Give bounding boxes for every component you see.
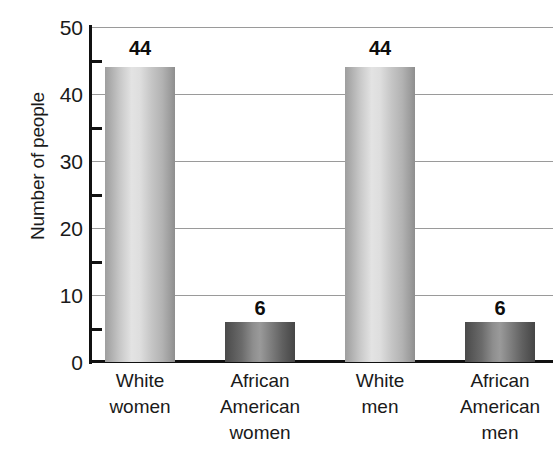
bar-african-american-men[interactable] (465, 322, 535, 362)
category-line: women (70, 394, 210, 420)
y-tick-label-30: 30 (23, 151, 83, 172)
category-line: African (430, 368, 560, 394)
category-line: men (310, 394, 450, 420)
bar-white-men[interactable] (345, 67, 415, 362)
category-line: White (310, 368, 450, 394)
value-label-african-american-men: 6 (455, 297, 545, 320)
bar-african-american-women[interactable] (225, 322, 295, 362)
bar-chart: Number of people 50 40 30 20 10 0 44 6 4… (0, 0, 560, 456)
category-line: African (190, 368, 330, 394)
category-label-african-american-women: African American women (190, 368, 330, 446)
category-line: White (70, 368, 210, 394)
value-label-white-men: 44 (335, 37, 425, 60)
value-label-african-american-women: 6 (215, 297, 305, 320)
category-label-white-women: White women (70, 368, 210, 420)
category-label-white-men: White men (310, 368, 450, 420)
y-tick-label-50: 50 (23, 17, 83, 38)
category-line: women (190, 420, 330, 446)
category-line: men (430, 420, 560, 446)
y-tick-label-40: 40 (23, 84, 83, 105)
y-tick-label-10: 10 (23, 285, 83, 306)
category-label-african-american-men: African American men (430, 368, 560, 446)
bar-white-women[interactable] (105, 67, 175, 362)
category-line: American (430, 394, 560, 420)
value-label-white-women: 44 (95, 37, 185, 60)
category-line: American (190, 394, 330, 420)
y-tick-label-20: 20 (23, 218, 83, 239)
